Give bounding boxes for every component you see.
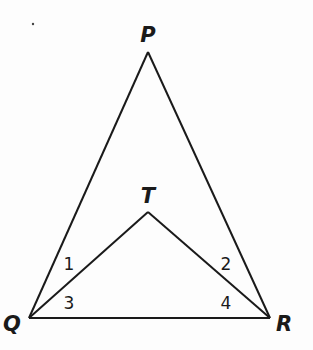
vertex-label-r: R [276,312,292,336]
segment-pr [148,52,270,318]
segment-qt [29,212,148,318]
angle-label-2: 2 [221,254,232,274]
angle-label-1: 1 [64,254,75,274]
vertex-label-t: T [141,184,157,208]
angle-label-4: 4 [221,293,232,313]
angle-label-3: 3 [64,293,75,313]
vertex-label-q: Q [3,312,21,336]
geometry-diagram: P T Q R 1 3 2 4 [0,0,313,350]
segment-tr [148,212,270,318]
diagram-svg: P T Q R 1 3 2 4 [0,0,313,350]
segment-pq [29,52,148,318]
stray-dot [32,23,34,25]
vertex-label-p: P [140,23,156,47]
